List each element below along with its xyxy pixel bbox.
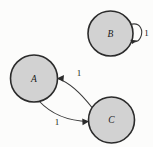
node-a[interactable]: A (11, 55, 58, 102)
node-c-label: C (108, 115, 115, 125)
edge-c-to-a-path (58, 78, 93, 107)
edge-a-to-c-path (39, 101, 89, 122)
edge-c-to-a: 1 (57, 68, 92, 108)
edge-a-to-c: 1 (39, 101, 89, 127)
graph-svg: 1 1 B 1 A C (0, 0, 153, 147)
edge-a-to-c-label: 1 (55, 117, 60, 127)
edge-c-to-a-label: 1 (77, 68, 82, 78)
node-c[interactable]: C (89, 97, 135, 143)
edge-b-self-loop-label: 1 (144, 28, 149, 38)
node-a-label: A (30, 74, 37, 84)
node-b-label: B (108, 29, 114, 39)
node-b[interactable]: B (88, 11, 133, 56)
state-diagram-canvas: 1 1 B 1 A C (0, 0, 153, 147)
